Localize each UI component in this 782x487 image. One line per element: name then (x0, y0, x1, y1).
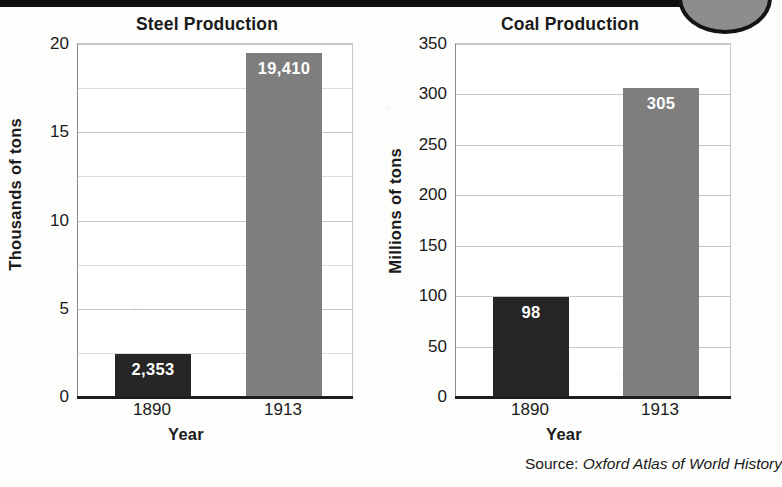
chart-title-coal: Coal Production (380, 14, 746, 35)
chart-title-steel: Steel Production (0, 14, 380, 35)
x-axis-line (455, 396, 731, 399)
x-tick-label-1913: 1913 (225, 400, 341, 420)
source-prefix: Source: (525, 455, 578, 472)
bar-value-label: 19,410 (246, 59, 322, 78)
y-axis-title-coal: Millions of tons (386, 148, 405, 274)
y-tick-label: 15 (15, 123, 69, 140)
bar-coal-1890: 98 (493, 297, 569, 396)
bar-coal-1913: 305 (623, 88, 699, 396)
page-top-rule (0, 0, 746, 7)
y-tick-label: 50 (393, 337, 447, 354)
y-tick-label: 20 (15, 35, 69, 52)
y-tick-label: 0 (15, 388, 69, 405)
y-tick-label: 300 (393, 85, 447, 102)
x-axis-line (77, 396, 353, 399)
x-tick-label-1890: 1890 (94, 400, 210, 420)
bar-value-label: 2,353 (115, 360, 191, 379)
source-caption: Source: Oxford Atlas of World History (525, 455, 782, 473)
x-tick-label-1890: 1890 (472, 400, 588, 420)
x-tick-label-1913: 1913 (602, 400, 718, 420)
x-axis-title-steel: Year (168, 425, 204, 444)
y-tick-label: 5 (15, 299, 69, 316)
x-axis-title-coal: Year (546, 425, 582, 444)
y-tick-label: 10 (15, 211, 69, 228)
y-axis-title-steel: Thousands of tons (6, 118, 25, 271)
plot-area-coal: 98305 (455, 43, 731, 396)
bar-steel-1913: 19,410 (246, 53, 322, 396)
y-tick-label: 100 (393, 287, 447, 304)
bar-value-label: 98 (493, 303, 569, 322)
plot-area-steel: 2,35319,410 (77, 43, 353, 396)
bar-value-label: 305 (623, 94, 699, 113)
bar-steel-1890: 2,353 (115, 354, 191, 396)
gridline (456, 44, 730, 45)
gridline (78, 44, 352, 45)
y-tick-label: 0 (393, 388, 447, 405)
source-title: Oxford Atlas of World History (583, 455, 782, 472)
y-tick-label: 350 (393, 35, 447, 52)
